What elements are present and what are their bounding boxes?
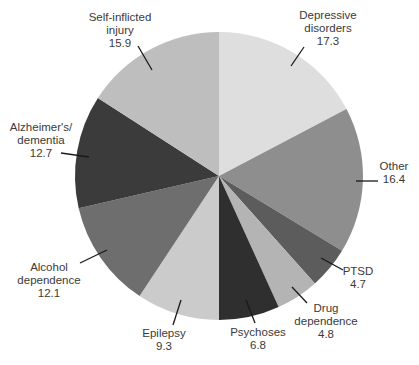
slice-label-text: Psychoses — [230, 326, 286, 339]
slice-label-text: dementia — [10, 134, 72, 147]
slice-label-text: dependence — [17, 274, 80, 287]
slice-label-text: injury — [89, 24, 152, 37]
slice-value: 15.9 — [89, 37, 152, 50]
slice-label: Epilepsy9.3 — [142, 327, 185, 353]
pie-slices — [75, 32, 363, 320]
slice-label-text: Alzheimer's/ — [10, 121, 72, 134]
slice-value: 16.4 — [380, 173, 409, 186]
slice-label: PTSD4.7 — [343, 265, 374, 291]
slice-value: 6.8 — [230, 339, 286, 352]
slice-label-text: Self-inflicted — [89, 11, 152, 24]
slice-label: Alcoholdependence12.1 — [17, 261, 80, 300]
slice-label: Depressivedisorders17.3 — [299, 9, 357, 48]
slice-label-text: Drug — [294, 302, 357, 315]
slice-value: 9.3 — [142, 340, 185, 353]
slice-value: 12.1 — [17, 287, 80, 300]
slice-value: 12.7 — [10, 147, 72, 160]
slice-label-text: Alcohol — [17, 261, 80, 274]
slice-label-text: Other — [380, 160, 409, 173]
slice-value: 17.3 — [299, 35, 357, 48]
slice-label-text: dependence — [294, 315, 357, 328]
slice-label: Drugdependence4.8 — [294, 302, 357, 341]
slice-label: Other16.4 — [380, 160, 409, 186]
slice-value: 4.8 — [294, 328, 357, 341]
slice-label: Self-inflictedinjury15.9 — [89, 11, 152, 50]
slice-value: 4.7 — [343, 278, 374, 291]
slice-label: Alzheimer's/dementia12.7 — [10, 121, 72, 160]
slice-label-text: PTSD — [343, 265, 374, 278]
slice-label-text: Epilepsy — [142, 327, 185, 340]
slice-label: Psychoses6.8 — [230, 326, 286, 352]
slice-label-text: Depressive — [299, 9, 357, 22]
slice-label-text: disorders — [299, 22, 357, 35]
